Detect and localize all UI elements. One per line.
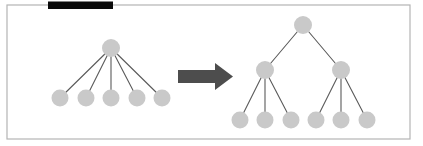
right-tree-internal-node-left xyxy=(256,61,274,79)
left-tree-leaf-node-2 xyxy=(78,90,95,107)
right-tree-internal-node-right xyxy=(332,61,350,79)
left-tree-leaf-node-4 xyxy=(129,90,146,107)
right-tree-leaf-node-1 xyxy=(232,112,249,129)
left-tree-root-node xyxy=(102,39,120,57)
right-tree-leaf-node-5 xyxy=(333,112,350,129)
left-tree-leaf-node-5 xyxy=(154,90,171,107)
tree-transformation-diagram xyxy=(0,0,423,146)
diagram-canvas xyxy=(0,0,423,146)
left-tree-leaf-node-1 xyxy=(52,90,69,107)
left-tree-leaf-node-3 xyxy=(103,90,120,107)
right-tree-leaf-node-4 xyxy=(308,112,325,129)
black-bar xyxy=(48,2,113,10)
right-tree-root-node xyxy=(294,16,312,34)
right-tree-leaf-node-3 xyxy=(283,112,300,129)
right-tree-leaf-node-2 xyxy=(257,112,274,129)
right-tree-leaf-node-6 xyxy=(359,112,376,129)
